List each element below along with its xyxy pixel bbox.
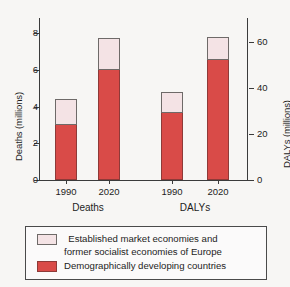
plot-area: Deaths (millions) DALYs (millions) 8 6 4… <box>0 0 290 215</box>
x-axis-group-label-deaths: Deaths <box>48 202 128 213</box>
x-axis-tick-dalys-2020 <box>218 180 219 184</box>
bar-deaths-1990 <box>55 99 77 180</box>
bar-segment-established <box>98 38 120 70</box>
bar-segment-developing <box>207 60 229 180</box>
y-axis-right-label-60: 60 <box>257 37 279 47</box>
y-axis-right-tick-20 <box>249 134 254 135</box>
bar-segment-developing <box>161 113 183 180</box>
legend-swatch-established-icon <box>37 234 57 245</box>
legend-label-developing: Demographically developing countries <box>64 260 226 273</box>
legend-item-developing: Demographically developing countries <box>37 260 226 273</box>
bar-deaths-2020 <box>98 38 120 180</box>
bars-layer <box>39 18 249 180</box>
x-axis-label-deaths-2020: 2020 <box>89 186 129 197</box>
y-axis-left-label-0: 0 <box>18 175 38 185</box>
bar-dalys-1990 <box>161 92 183 180</box>
x-axis-tick-deaths-2020 <box>109 180 110 184</box>
y-axis-right-title: DALYs (millions) <box>281 100 290 168</box>
x-axis-label-dalys-1990: 1990 <box>152 186 192 197</box>
y-axis-left-label-4: 4 <box>18 102 38 112</box>
bar-segment-established <box>161 92 183 113</box>
y-axis-right-label-20: 20 <box>257 129 279 139</box>
bar-segment-established <box>55 99 77 125</box>
bar-segment-developing <box>98 70 120 180</box>
legend-swatch-developing-icon <box>37 261 57 272</box>
x-axis-group-label-dalys: DALYs <box>155 202 235 213</box>
bar-segment-established <box>207 37 229 60</box>
y-axis-right-label-0: 0 <box>257 175 279 185</box>
x-axis-label-deaths-1990: 1990 <box>46 186 86 197</box>
y-axis-right-tick-0 <box>249 180 254 181</box>
legend-item-established: Established market economies and former … <box>37 233 222 258</box>
y-axis-left-label-6: 6 <box>18 65 38 75</box>
y-axis-right-tick-40 <box>249 88 254 89</box>
y-axis-left-label-8: 8 <box>18 28 38 38</box>
x-axis-tick-deaths-1990 <box>66 180 67 184</box>
y-axis-left-label-2: 2 <box>18 138 38 148</box>
y-axis-right-label-40: 40 <box>257 83 279 93</box>
legend: Established market economies and former … <box>25 226 267 280</box>
y-axis-right-tick-60 <box>249 42 254 43</box>
bar-dalys-2020 <box>207 37 229 180</box>
x-axis-tick-dalys-1990 <box>172 180 173 184</box>
x-axis-label-dalys-2020: 2020 <box>198 186 238 197</box>
bar-segment-developing <box>55 125 77 180</box>
legend-label-established: Established market economies and former … <box>64 233 222 258</box>
chart-root: Deaths (millions) DALYs (millions) 8 6 4… <box>0 0 290 287</box>
